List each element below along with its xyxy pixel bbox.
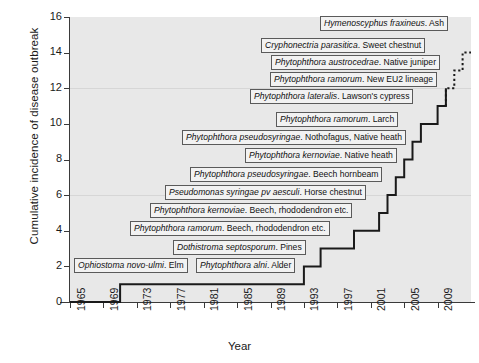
event-label-nativeheath: Phytophthora kernoviae. Native heath — [245, 148, 397, 163]
x-tick-label: 1981 — [208, 288, 220, 311]
event-label-pines: Dothistroma septosporum. Pines — [173, 240, 306, 255]
x-tick-label: 1969 — [108, 288, 120, 311]
event-label-pathogen: Phytophthora pseudosyringae — [186, 132, 300, 142]
event-label-sweetchestnut: Cryphonectria parasitica. Sweet chestnut — [261, 38, 425, 53]
event-label-pathogen: Phytophthora kernoviae — [249, 150, 340, 160]
x-tick-mark — [271, 303, 272, 308]
event-label-pathogen: Phytophthora ramorum — [280, 114, 368, 124]
event-label-host: . Pines — [275, 242, 301, 252]
x-tick-mark — [371, 303, 372, 308]
event-label-pathogen: Phytophthora ramorum — [134, 223, 222, 233]
x-tick-mark — [304, 303, 305, 308]
x-tick-label: 2001 — [375, 288, 387, 311]
event-label-cypress: Phytophthora lateralis. Lawson's cypress — [250, 89, 413, 104]
event-label-host: . Beech, rhododendron etc. — [222, 223, 326, 233]
y-tick-mark — [64, 53, 69, 54]
y-axis-line — [69, 17, 70, 303]
x-tick-label: 1977 — [175, 288, 187, 311]
x-tick-mark — [438, 303, 439, 308]
y-tick-mark — [64, 160, 69, 161]
x-tick-label: 1965 — [75, 288, 87, 311]
x-tick-mark — [103, 303, 104, 308]
y-tick-label: 8 — [34, 152, 62, 164]
event-label-host: . New EU2 lineage — [362, 74, 433, 84]
event-label-kernbeech: Phytophthora kernoviae. Beech, rhododend… — [150, 203, 352, 218]
event-label-host: . Larch — [368, 114, 394, 124]
event-label-host: . Lawson's cypress — [337, 91, 409, 101]
y-tick-mark — [64, 266, 69, 267]
x-tick-mark — [237, 303, 238, 308]
event-label-host: . Beech, rhododendron etc. — [245, 205, 349, 215]
event-label-alder: Phytophthora alni. Alder — [196, 258, 295, 273]
x-tick-label: 1993 — [308, 288, 320, 311]
event-label-pathogen: Phytophthora alni — [200, 260, 267, 270]
y-tick-mark — [64, 17, 69, 18]
event-label-horsechestnut: Pseudomonas syringae pv aesculi. Horse c… — [165, 185, 366, 200]
x-tick-label: 1997 — [342, 288, 354, 311]
event-label-pathogen: Cryphonectria parasitica — [265, 40, 358, 50]
y-tick-label: 12 — [34, 81, 62, 93]
y-tick-label: 14 — [34, 45, 62, 57]
event-label-host: . Beech hornbeam — [308, 169, 378, 179]
event-label-host: . Native juniper — [379, 57, 436, 67]
event-label-pathogen: Dothistroma septosporum — [177, 242, 275, 252]
event-label-pathogen: Hymenoscyphus fraxineus — [324, 18, 425, 28]
y-tick-label: 16 — [34, 10, 62, 22]
chart-figure: Cumulative incidence of disease outbreak… — [0, 0, 479, 363]
event-label-pathogen: Phytophthora kernoviae — [154, 205, 245, 215]
y-tick-mark — [64, 302, 69, 303]
y-tick-label: 6 — [34, 188, 62, 200]
x-tick-mark — [70, 303, 71, 308]
x-tick-mark — [137, 303, 138, 308]
x-axis-title: Year — [0, 340, 479, 352]
event-label-nothofagus: Phytophthora pseudosyringae. Nothofagus,… — [182, 130, 406, 145]
event-label-eu2: Phytophthora ramorum. New EU2 lineage — [270, 72, 437, 87]
event-label-hornbeam: Phytophthora pseudosyringae. Beech hornb… — [190, 167, 382, 182]
x-tick-mark — [337, 303, 338, 308]
event-label-pathogen: Phytophthora pseudosyringae — [194, 169, 308, 179]
y-tick-label: 0 — [34, 295, 62, 307]
y-tick-mark — [64, 124, 69, 125]
y-tick-mark — [64, 195, 69, 196]
event-label-host: . Horse chestnut — [299, 187, 362, 197]
y-tick-label: 4 — [34, 223, 62, 235]
event-label-host: . Ash — [425, 18, 444, 28]
event-label-host: . Alder — [267, 260, 291, 270]
event-label-host: . Sweet chestnut — [358, 40, 422, 50]
event-label-pathogen: Ophiostoma novo-ulmi — [78, 260, 164, 270]
event-label-pathogen: Phytophthora ramorum — [274, 74, 362, 84]
event-label-ramobeech: Phytophthora ramorum. Beech, rhododendro… — [130, 221, 330, 236]
event-label-juniper: Phytophthora austrocedrae. Native junipe… — [271, 55, 440, 70]
x-tick-label: 1989 — [275, 288, 287, 311]
event-label-host: . Native heath — [340, 150, 393, 160]
event-label-larch: Phytophthora ramorum. Larch — [276, 112, 398, 127]
x-tick-label: 1973 — [141, 288, 153, 311]
x-tick-mark — [404, 303, 405, 308]
y-tick-mark — [64, 231, 69, 232]
event-label-elm: Ophiostoma novo-ulmi. Elm — [74, 258, 188, 273]
x-tick-label: 1985 — [242, 288, 254, 311]
event-label-host: . Nothofagus, Native heath — [300, 132, 402, 142]
event-label-ash: Hymenoscyphus fraxineus. Ash — [320, 16, 448, 31]
event-label-pathogen: Phytophthora lateralis — [254, 91, 337, 101]
x-tick-mark — [170, 303, 171, 308]
event-label-pathogen: Phytophthora austrocedrae — [275, 57, 379, 67]
y-tick-label: 10 — [34, 116, 62, 128]
x-tick-label: 2009 — [442, 288, 454, 311]
y-tick-label: 2 — [34, 259, 62, 271]
x-tick-label: 2005 — [409, 288, 421, 311]
y-tick-mark — [64, 88, 69, 89]
x-tick-mark — [204, 303, 205, 308]
event-label-host: . Elm — [164, 260, 184, 270]
event-label-pathogen: Pseudomonas syringae pv aesculi — [169, 187, 299, 197]
